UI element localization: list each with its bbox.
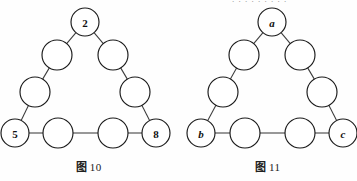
circle-upper-right[interactable] <box>285 40 315 70</box>
figure-11-caption-prefix: 图 <box>255 161 267 173</box>
edge-upper-left-to-mid-left <box>43 68 50 79</box>
node-mid-right[interactable] <box>120 77 150 107</box>
edge-mid-left-to-bottom-left <box>208 105 216 120</box>
node-bottom-mid-2[interactable] <box>98 118 128 148</box>
node-label-bottom-left: b <box>198 128 204 140</box>
circle-mid-left[interactable] <box>208 77 238 107</box>
edge-apex-to-upper-left <box>254 33 263 44</box>
node-label-bottom-right: 8 <box>153 128 159 140</box>
figure-page: . . . . . . . . . 258 图10 abc 图11 <box>0 0 357 181</box>
circle-bottom-mid-1[interactable] <box>43 118 73 148</box>
circle-upper-left[interactable] <box>229 40 259 70</box>
circle-upper-right[interactable] <box>98 40 128 70</box>
edge-mid-left-to-bottom-left <box>21 105 28 120</box>
edge-upper-right-to-mid-right <box>308 68 315 79</box>
circle-bottom-mid-2[interactable] <box>285 118 315 148</box>
node-bottom-right[interactable]: 8 <box>142 119 170 147</box>
node-label-apex: 2 <box>82 17 88 29</box>
node-bottom-mid-2[interactable] <box>285 118 315 148</box>
node-upper-right[interactable] <box>98 40 128 70</box>
circle-mid-right[interactable] <box>120 77 150 107</box>
edge-mid-right-to-bottom-right <box>329 105 337 120</box>
node-bottom-left[interactable]: b <box>187 119 215 147</box>
node-mid-left[interactable] <box>20 77 50 107</box>
figure-11: abc 图11 <box>179 0 357 181</box>
edge-apex-to-upper-left <box>67 33 76 44</box>
figure-10-caption: 图10 <box>0 158 178 174</box>
edge-apex-to-upper-right <box>281 33 290 44</box>
edge-upper-left-to-mid-left <box>230 68 236 79</box>
circle-mid-left[interactable] <box>20 77 50 107</box>
node-label-bottom-right: c <box>341 128 346 140</box>
node-upper-left[interactable] <box>229 40 259 70</box>
circle-mid-right[interactable] <box>307 77 337 107</box>
node-bottom-mid-1[interactable] <box>230 118 260 148</box>
figure-10: 258 图10 <box>0 0 178 181</box>
circle-bottom-mid-1[interactable] <box>230 118 260 148</box>
node-bottom-right[interactable]: c <box>329 119 357 147</box>
edge-mid-right-to-bottom-right <box>142 105 150 120</box>
node-upper-right[interactable] <box>285 40 315 70</box>
node-mid-left[interactable] <box>208 77 238 107</box>
node-bottom-left[interactable]: 5 <box>1 119 29 147</box>
node-apex[interactable]: a <box>258 8 286 36</box>
triangle-diagram-11: abc <box>179 0 357 155</box>
edge-upper-right-to-mid-right <box>121 68 128 79</box>
figure-10-caption-prefix: 图 <box>76 161 88 173</box>
figure-10-caption-number: 10 <box>88 161 102 173</box>
node-upper-left[interactable] <box>42 40 72 70</box>
circle-upper-left[interactable] <box>42 40 72 70</box>
node-apex[interactable]: 2 <box>71 8 99 36</box>
edge-apex-to-upper-right <box>94 33 103 44</box>
node-mid-right[interactable] <box>307 77 337 107</box>
node-label-bottom-left: 5 <box>12 128 18 140</box>
circle-bottom-mid-2[interactable] <box>98 118 128 148</box>
figure-11-caption-number: 11 <box>267 161 281 173</box>
triangle-diagram-10: 258 <box>0 0 178 155</box>
node-label-apex: a <box>269 17 275 29</box>
node-bottom-mid-1[interactable] <box>43 118 73 148</box>
figure-11-caption: 图11 <box>179 158 357 174</box>
